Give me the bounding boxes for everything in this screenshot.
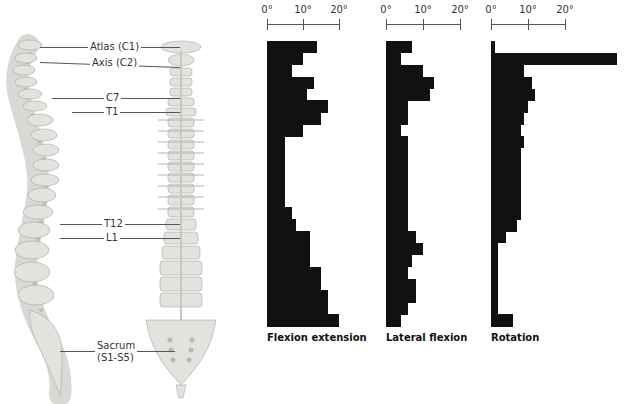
label-sacrum: Sacrum <box>95 340 137 352</box>
bar-t10-t11 <box>491 231 506 243</box>
bar-t7-t8 <box>491 195 521 207</box>
bar-t1-t2 <box>267 124 303 136</box>
bar-c4-c5 <box>386 77 434 89</box>
bar-t3-t4 <box>267 148 285 160</box>
bar-t2-t3 <box>267 136 285 148</box>
bar-t2-t3 <box>491 136 524 148</box>
bar-c5-c6 <box>267 89 307 101</box>
bar-c1-c2 <box>491 41 495 53</box>
tick <box>491 19 492 30</box>
leader-line <box>60 238 180 239</box>
chart-title: Rotation <box>491 332 539 343</box>
bar-c6-c7 <box>491 100 528 112</box>
bar-c3-c4 <box>386 65 423 77</box>
bar-c5-c6 <box>491 89 535 101</box>
bar-c7-t1 <box>386 112 408 124</box>
bar-t12-l1 <box>491 255 498 267</box>
bar-c3-c4 <box>267 65 292 77</box>
bar-c3-c4 <box>491 65 524 77</box>
bar-t4-t5 <box>267 160 285 172</box>
bar-l3-l4 <box>386 290 416 302</box>
bar-t8-t9 <box>267 207 292 219</box>
bar-t8-t9 <box>386 207 408 219</box>
tick-label: 10° <box>294 4 312 15</box>
bar-t7-t8 <box>386 195 408 207</box>
bar-c4-c5 <box>267 77 314 89</box>
bar-l4-l5 <box>491 302 498 314</box>
bar-t4-t5 <box>491 160 521 172</box>
bar-t10-t11 <box>267 231 310 243</box>
bar-t6-t7 <box>386 184 408 196</box>
tick-label: 20° <box>556 4 574 15</box>
bar-l1-l2 <box>267 267 321 279</box>
bar-t9-t10 <box>267 219 296 231</box>
bar-t5-t6 <box>267 172 285 184</box>
bar-t11-t12 <box>491 243 498 255</box>
tick-label: 20° <box>330 4 348 15</box>
bar-c1-c2 <box>267 41 317 53</box>
tick-label: 0° <box>380 4 391 15</box>
tick <box>386 19 387 30</box>
bar-c2-c3 <box>386 53 401 65</box>
bar-t11-t12 <box>267 243 310 255</box>
tick <box>565 19 566 30</box>
chart-title: Lateral flexion <box>386 332 467 343</box>
bar-t9-t10 <box>386 219 408 231</box>
label-atlas-c1: Atlas (C1) <box>88 41 141 53</box>
tick <box>460 19 461 30</box>
bar-c2-c3 <box>267 53 303 65</box>
label-t1: T1 <box>104 106 120 118</box>
spine-illustration: Atlas (C1) Axis (C2) C7 T1 T12 L1 Sacrum… <box>0 0 250 404</box>
bar-t9-t10 <box>491 219 517 231</box>
tick <box>528 19 529 30</box>
bar-t11-t12 <box>386 243 423 255</box>
bar-t10-t11 <box>386 231 416 243</box>
bar-l4-l5 <box>386 302 408 314</box>
label-t12: T12 <box>102 218 125 230</box>
bar-c7-t1 <box>491 112 524 124</box>
bar-l2-l3 <box>491 279 498 291</box>
bar-l2-l3 <box>267 279 321 291</box>
bar-t1-t2 <box>491 124 521 136</box>
bar-t7-t8 <box>267 195 285 207</box>
bar-c2-c3 <box>491 53 617 65</box>
bar-l3-l4 <box>267 290 328 302</box>
bar-l5-s1 <box>491 314 513 326</box>
bar-t6-t7 <box>267 184 285 196</box>
bar-t5-t6 <box>491 172 521 184</box>
tick-label: 20° <box>451 4 469 15</box>
bar-c4-c5 <box>491 77 532 89</box>
bar-c6-c7 <box>386 100 408 112</box>
bar-l1-l2 <box>491 267 498 279</box>
bar-t12-l1 <box>386 255 412 267</box>
tick <box>423 19 424 30</box>
bar-l4-l5 <box>267 302 328 314</box>
bar-t5-t6 <box>386 172 408 184</box>
bar-c6-c7 <box>267 100 328 112</box>
tick <box>303 19 304 30</box>
label-l1: L1 <box>104 232 120 244</box>
tick-label: 0° <box>261 4 272 15</box>
bar-l3-l4 <box>491 290 498 302</box>
bar-t3-t4 <box>491 148 521 160</box>
bar-t1-t2 <box>386 124 401 136</box>
tick-label: 10° <box>414 4 432 15</box>
tick-label: 0° <box>485 4 496 15</box>
bar-l5-s1 <box>386 314 401 326</box>
tick <box>339 19 340 30</box>
label-axis-c2: Axis (C2) <box>90 57 139 69</box>
bar-c5-c6 <box>386 89 430 101</box>
bar-t6-t7 <box>491 184 521 196</box>
bar-l5-s1 <box>267 314 339 326</box>
label-sacrum-range: (S1-S5) <box>95 352 136 364</box>
bar-t12-l1 <box>267 255 310 267</box>
bar-t8-t9 <box>491 207 521 219</box>
bar-c1-c2 <box>386 41 412 53</box>
tick-label: 10° <box>519 4 537 15</box>
bar-t4-t5 <box>386 160 408 172</box>
label-c7: C7 <box>104 92 121 104</box>
bar-t3-t4 <box>386 148 408 160</box>
bar-l2-l3 <box>386 279 416 291</box>
bar-c7-t1 <box>267 112 321 124</box>
tick <box>267 19 268 30</box>
